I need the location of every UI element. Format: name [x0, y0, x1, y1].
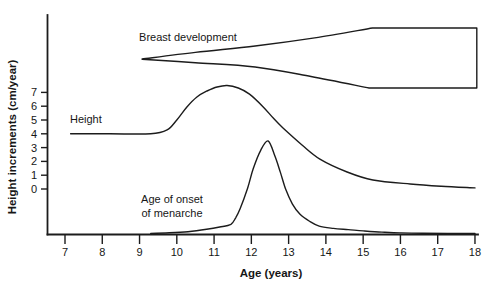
y-tick-label: 0 [31, 183, 37, 195]
x-tick-label: 16 [394, 246, 406, 258]
x-tick-label: 17 [432, 246, 444, 258]
y-axis-tick-labels: 01234567 [31, 86, 37, 195]
x-tick-label: 12 [245, 246, 257, 258]
x-tick-label: 11 [208, 246, 219, 258]
y-tick-label: 7 [31, 86, 37, 98]
curves [71, 28, 477, 234]
x-tick-label: 18 [469, 246, 481, 258]
growth-chart-canvas: 01234567 789101112131415161718 Breast de… [0, 0, 498, 295]
axes [48, 15, 479, 235]
menarche-label-line2: of menarche [141, 207, 202, 219]
x-tick-label: 13 [282, 246, 294, 258]
y-axis-ticks [41, 92, 48, 189]
y-tick-label: 5 [31, 114, 37, 126]
y-tick-label: 4 [31, 128, 37, 140]
height-velocity-curve [71, 85, 475, 187]
x-axis-ticks [65, 235, 475, 245]
height-curve-label: Height [70, 113, 102, 125]
y-tick-label: 6 [31, 100, 37, 112]
x-tick-label: 14 [320, 246, 332, 258]
x-tick-label: 8 [99, 246, 105, 258]
x-tick-label: 15 [357, 246, 369, 258]
x-axis-title: Age (years) [240, 267, 303, 279]
x-tick-label: 7 [62, 246, 68, 258]
x-tick-label: 9 [136, 246, 142, 258]
growth-velocity-figure: 01234567 789101112131415161718 Breast de… [0, 0, 498, 295]
y-tick-label: 3 [31, 142, 37, 154]
x-axis-tick-labels: 789101112131415161718 [62, 246, 481, 258]
y-axis-title: Height increments (cm/year) [6, 60, 18, 215]
y-tick-label: 2 [31, 155, 37, 167]
menarche-label-line1: Age of onset [141, 193, 203, 205]
breast-development-label: Breast development [139, 31, 237, 43]
x-tick-label: 10 [171, 246, 183, 258]
y-tick-label: 1 [31, 169, 37, 181]
